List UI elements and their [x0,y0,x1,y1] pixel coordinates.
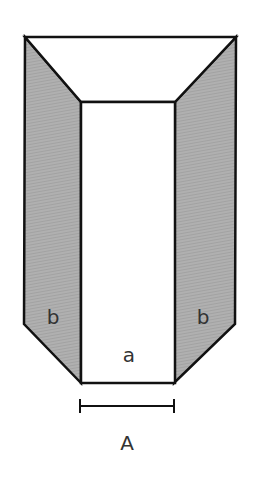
center-face-label: a [123,343,135,367]
prism-diagram: b b a A [0,0,268,483]
left-face-label: b [47,305,60,329]
right-face-label: b [197,305,210,329]
dimension-label: A [120,431,134,455]
dimension-line [80,399,174,413]
center-face-a [81,102,175,383]
